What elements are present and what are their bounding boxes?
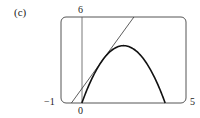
plot-area — [0, 0, 200, 118]
viewing-window-frame — [61, 17, 186, 103]
parabola-curve — [82, 46, 165, 103]
